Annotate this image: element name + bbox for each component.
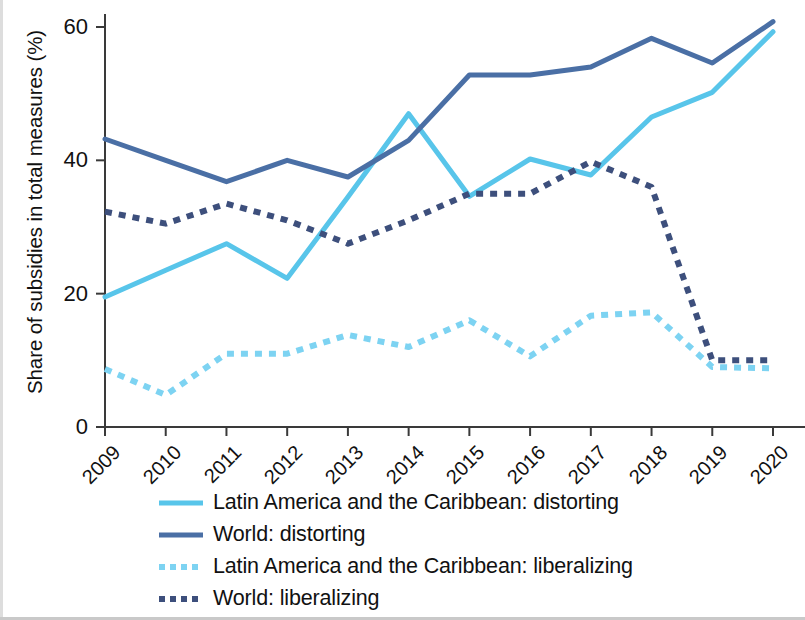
y-tick-label: 20 [40, 281, 88, 307]
y-tick-label: 60 [40, 14, 88, 40]
chart-legend: Latin America and the Caribbean: distort… [158, 487, 633, 615]
legend-label: World: distorting [213, 524, 365, 546]
legend-item[interactable]: World: liberalizing [158, 583, 633, 615]
legend-swatch-dotted-icon [158, 589, 204, 609]
legend-item[interactable]: World: distorting [158, 519, 633, 551]
legend-swatch-dotted-icon [158, 557, 204, 577]
legend-label: Latin America and the Caribbean: distort… [213, 492, 619, 514]
plot-area [0, 0, 805, 470]
y-tick-label: 0 [40, 414, 88, 440]
series-group [105, 22, 773, 395]
series-line-3 [105, 162, 773, 361]
series-line-0 [105, 32, 773, 297]
legend-item[interactable]: Latin America and the Caribbean: liberal… [158, 551, 633, 583]
y-tick-label: 40 [40, 147, 88, 173]
axes-group [96, 14, 805, 436]
series-line-2 [105, 312, 773, 395]
chart-figure: Share of subsidies in total measures (%)… [0, 0, 805, 620]
legend-swatch-solid-icon [158, 525, 204, 545]
legend-item[interactable]: Latin America and the Caribbean: distort… [158, 487, 633, 519]
legend-label: World: liberalizing [213, 588, 379, 610]
legend-swatch-solid-icon [158, 493, 204, 513]
legend-label: Latin America and the Caribbean: liberal… [213, 556, 633, 578]
